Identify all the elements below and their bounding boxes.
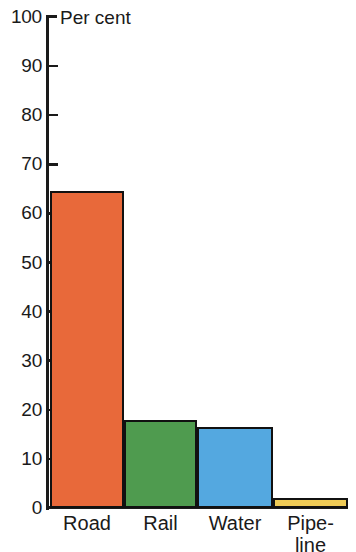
category-label-rail: Rail	[124, 512, 197, 534]
bar-rail[interactable]	[124, 420, 197, 508]
y-tick-80	[48, 114, 58, 117]
y-axis-top-cap	[46, 15, 57, 18]
y-tick-label-70: 70	[0, 154, 42, 173]
y-tick-label-0: 0	[0, 498, 42, 517]
category-label-water: Water	[197, 512, 273, 534]
y-tick-label-60: 60	[0, 203, 42, 222]
y-tick-label-100: 100	[0, 7, 42, 26]
y-tick-label-90: 90	[0, 56, 42, 75]
y-tick-label-80: 80	[0, 105, 42, 124]
category-label-road: Road	[50, 512, 124, 534]
bar-water[interactable]	[197, 427, 273, 508]
y-tick-90	[48, 65, 58, 68]
y-tick-label-20: 20	[0, 400, 42, 419]
y-tick-label-50: 50	[0, 253, 42, 272]
category-label-pipeline: Pipe- line	[273, 512, 348, 552]
bar-chart: Per cent 0102030405060708090100 RoadRail…	[0, 0, 356, 552]
y-tick-70	[48, 163, 58, 166]
y-axis-title: Per cent	[60, 7, 131, 28]
bar-road[interactable]	[50, 191, 124, 508]
bar-pipeline[interactable]	[273, 498, 348, 508]
y-tick-label-30: 30	[0, 351, 42, 370]
y-tick-label-40: 40	[0, 302, 42, 321]
y-tick-label-10: 10	[0, 449, 42, 468]
